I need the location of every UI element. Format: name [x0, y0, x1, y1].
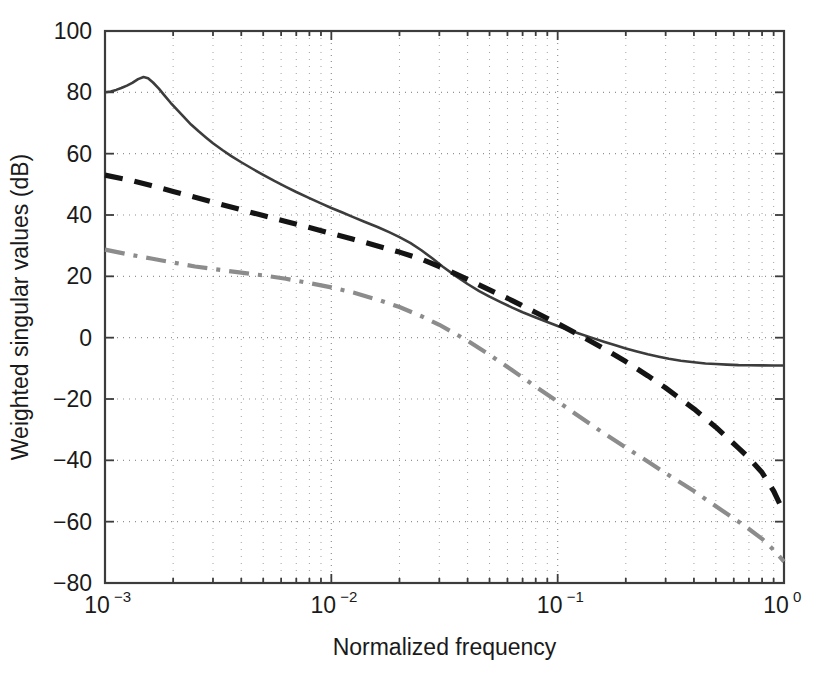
figure-container: 100806040200−20−40−60−80 10−310−210−1100…: [0, 0, 833, 674]
figure-background: [0, 0, 833, 674]
y-tick-label: 40: [66, 202, 92, 228]
y-tick-label: 80: [66, 79, 92, 105]
singular-values-plot: 100806040200−20−40−60−80 10−310−210−1100…: [0, 0, 833, 674]
y-tick-label: 100: [54, 18, 92, 44]
x-axis-title: Normalized frequency: [333, 634, 557, 660]
y-tick-label: −20: [53, 386, 92, 412]
y-axis-title: Weighted singular values (dB): [7, 154, 33, 460]
svg-text:0: 0: [793, 588, 801, 605]
y-tick-label: 60: [66, 141, 92, 167]
svg-text:10: 10: [537, 592, 563, 618]
svg-text:10: 10: [84, 592, 110, 618]
svg-text:10: 10: [311, 592, 337, 618]
y-tick-label: −40: [53, 447, 92, 473]
y-tick-label: 20: [66, 263, 92, 289]
y-tick-label: −60: [53, 509, 92, 535]
svg-text:−3: −3: [114, 588, 131, 605]
svg-text:−2: −2: [340, 588, 357, 605]
svg-text:10: 10: [763, 592, 789, 618]
y-tick-label: 0: [79, 325, 92, 351]
svg-text:−1: −1: [567, 588, 584, 605]
